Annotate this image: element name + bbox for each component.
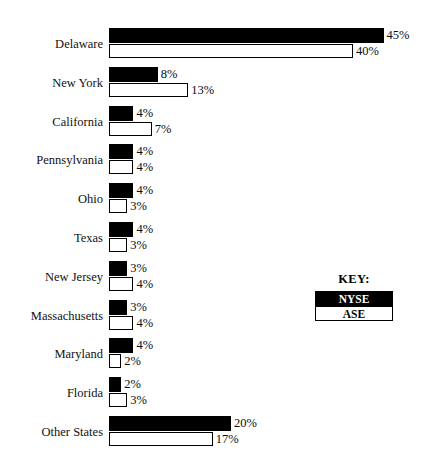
bar-value-nyse: 3% [130,262,147,275]
bar-ase [109,238,127,252]
bar-value-ase: 40% [356,45,379,58]
bar-value-nyse: 4% [136,145,153,158]
bar-value-ase: 13% [191,84,214,97]
bar-nyse [109,377,121,392]
bar-nyse [109,67,158,82]
bar-nyse [109,416,231,431]
legend-swatch-ase: ASE [316,306,392,320]
bar-value-nyse: 4% [136,339,153,352]
bar-ase [109,393,127,407]
bar-chart: Delaware45%40%New York8%13%California4%7… [0,0,426,472]
category-label: Pennsylvania [0,154,103,167]
category-label: New York [0,77,103,90]
bar-nyse [109,106,133,121]
bar-value-nyse: 4% [136,184,153,197]
category-label: Other States [0,426,103,439]
bar-ase [109,316,133,330]
bar-value-ase: 4% [136,317,153,330]
category-label: Maryland [0,348,103,361]
category-label: Florida [0,387,103,400]
bar-value-ase: 4% [136,161,153,174]
category-label: Delaware [0,38,103,51]
bar-value-nyse: 45% [387,29,410,42]
bar-value-nyse: 4% [136,107,153,120]
category-label: Ohio [0,193,103,206]
bar-value-nyse: 4% [136,223,153,236]
bar-value-ase: 4% [136,278,153,291]
bar-ase [109,199,127,213]
bar-nyse [109,222,133,237]
bar-value-ase: 7% [155,123,172,136]
bar-nyse [109,28,384,43]
bar-nyse [109,183,133,198]
bar-value-nyse: 8% [161,68,178,81]
bar-ase [109,44,353,58]
bar-value-ase: 2% [124,355,141,368]
category-label: Massachusetts [0,310,103,323]
bar-value-nyse: 20% [234,417,257,430]
bar-ase [109,354,121,368]
bar-value-nyse: 3% [130,301,147,314]
bar-ase [109,277,133,291]
bar-nyse [109,338,133,353]
category-label: California [0,116,103,129]
bar-value-ase: 3% [130,200,147,213]
legend-title: KEY: [315,272,393,287]
bar-ase [109,160,133,174]
bar-nyse [109,300,127,315]
bar-nyse [109,144,133,159]
bar-ase [109,122,152,136]
bar-value-ase: 3% [130,394,147,407]
chart-legend: KEY: NYSE ASE [315,272,395,321]
bar-value-ase: 17% [216,433,239,446]
legend-swatches: NYSE ASE [315,291,393,321]
bar-ase [109,432,213,446]
bar-value-nyse: 2% [124,378,141,391]
legend-swatch-nyse: NYSE [316,292,392,306]
bar-ase [109,83,188,97]
category-label: New Jersey [0,271,103,284]
bar-nyse [109,261,127,276]
bar-value-ase: 3% [130,239,147,252]
category-label: Texas [0,232,103,245]
